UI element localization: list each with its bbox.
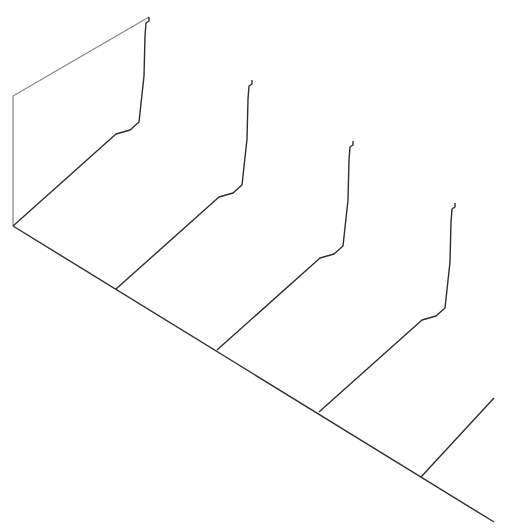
back-frame: [13, 17, 149, 226]
profile-1-line: [13, 17, 149, 226]
baseline-axis: [13, 226, 494, 522]
profile-2-line: [116, 80, 252, 289]
waterfall-diagram: [0, 0, 505, 531]
profile-3-line: [217, 141, 353, 350]
profiles-group: [13, 17, 494, 477]
frame-top-edge: [13, 17, 149, 96]
profile-5-line: [421, 398, 494, 477]
profile-4-line: [319, 203, 455, 412]
